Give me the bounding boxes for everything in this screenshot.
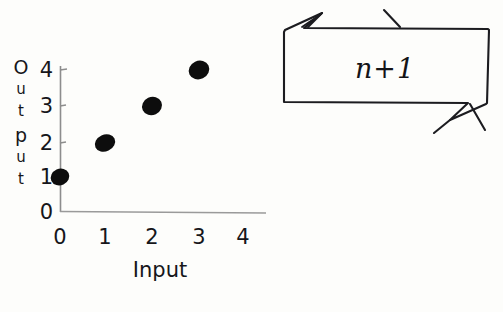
data-point [92,131,118,155]
y-axis-label: O u t p u t [8,58,34,194]
y-axis-label-letter: p [15,126,27,145]
data-point [139,94,165,119]
x-tick-label: 4 [232,225,254,249]
y-axis-label-letter: t [18,104,24,119]
y-tick-mark [60,105,66,106]
y-axis-label-letter: u [16,150,26,165]
y-tick-label: 4 [33,58,53,82]
x-tick-label: 0 [49,225,71,249]
data-point [186,57,213,83]
y-tick-label: 3 [33,94,53,118]
y-tick-mark [60,142,66,143]
y-axis-label-letter: O [14,58,29,77]
x-tick-label: 3 [188,225,210,249]
handdrawn-worksheet: O u t p u t 4 3 2 1 0 0 1 2 3 4 Input [0,0,503,312]
y-tick-label: 1 [33,165,53,189]
banner-tail-bottom-center [434,120,450,133]
y-tick-label: 2 [33,131,53,155]
y-axis-label-letter: t [18,172,24,187]
x-axis-line [60,212,266,214]
banner-tail-top-center [384,10,400,27]
y-tick-mark [60,69,67,70]
x-axis-label: Input [110,258,210,282]
y-axis-label-letter: u [16,82,26,97]
y-tick-label: 0 [33,200,53,224]
scatter-chart: O u t p u t 4 3 2 1 0 0 1 2 3 4 Input [0,0,285,312]
x-tick-label: 1 [94,225,116,249]
x-tick-label: 2 [141,225,163,249]
formula-text: n+1 [300,53,470,84]
